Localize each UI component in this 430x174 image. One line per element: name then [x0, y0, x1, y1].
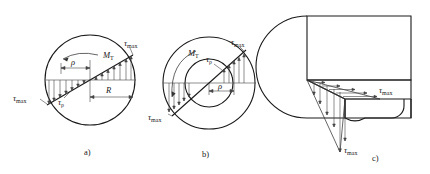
- panel-c-tau-max-bottom-label: τmax: [344, 145, 357, 156]
- panel-a-caption: a): [84, 147, 91, 157]
- panel-a-tau-max-top-label: τmax: [124, 38, 137, 49]
- panel-b-tau-rho-label: τρ: [206, 54, 212, 65]
- panel-c-shaft-body-outline: [345, 99, 411, 121]
- panel-b-rho-label: ρ: [217, 81, 222, 91]
- panel-a-torque-label: MT: [102, 50, 114, 61]
- panel-c: τmax τmax c): [256, 16, 411, 163]
- panel-a-tau-rho-label: τρ: [58, 97, 64, 108]
- panel-b-caption: b): [202, 149, 209, 159]
- panel-a-radius-dimension: [90, 80, 133, 102]
- panel-c-stress-triangle-vertical: [307, 80, 345, 152]
- panel-c-cylinder-end-circle: [256, 16, 307, 118]
- panel-b-tau-max-bottom-label: τmax: [148, 112, 161, 123]
- panel-a-torque-arrow-icon: [63, 53, 98, 61]
- panel-a-tau-max-bottom-label: τmax: [13, 93, 26, 104]
- panel-c-tau-max-right-label: τmax: [379, 85, 392, 96]
- panel-a: MT τmax τmax τρ ρ: [13, 35, 137, 157]
- panel-b-tau-max-top-label: τmax: [231, 37, 244, 48]
- panel-a-tau-max-bottom-leader: [40, 99, 47, 104]
- torsion-shear-stress-figure: MT τmax τmax τρ ρ: [0, 0, 430, 174]
- panel-b-tau-rho-leader: [214, 64, 222, 70]
- panel-a-rho-dimension: [61, 60, 90, 80]
- panel-a-stress-arrows-left: [48, 80, 86, 104]
- panel-b: MT τmax τmax τρ ρ b): [148, 37, 256, 159]
- panel-c-top-cut-face: [307, 16, 411, 80]
- panel-b-tau-max-bottom-leader: [168, 114, 172, 116]
- panel-a-tau-max-top-leader: [130, 48, 133, 55]
- panel-b-torque-label: MT: [187, 48, 199, 59]
- panel-c-body-bottom-curve: [307, 99, 404, 118]
- panel-a-rho-label: ρ: [70, 57, 75, 67]
- panel-b-stress-arrows-left: [168, 83, 191, 112]
- panel-c-caption: c): [372, 153, 379, 163]
- panel-b-stress-arrows-right: [223, 54, 246, 83]
- panel-a-radius-label: R: [105, 85, 112, 95]
